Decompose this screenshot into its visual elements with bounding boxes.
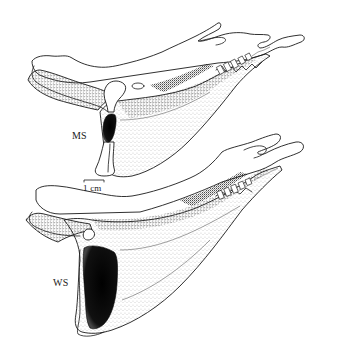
ms-upper-plate [32, 23, 304, 83]
scale-bar [84, 180, 104, 182]
specimen-ws [26, 134, 303, 336]
ms-process-ring [132, 83, 144, 89]
illustration-canvas [0, 0, 337, 360]
label-ws: WS [53, 277, 68, 288]
specimen-ms [28, 23, 304, 177]
mandible-illustration: MS 1 cm WS [0, 0, 337, 360]
ws-coronoid-bump [83, 229, 94, 240]
label-ms: MS [72, 130, 87, 141]
ms-angular-process [95, 142, 114, 176]
scale-bar-label: 1 cm [83, 183, 102, 193]
